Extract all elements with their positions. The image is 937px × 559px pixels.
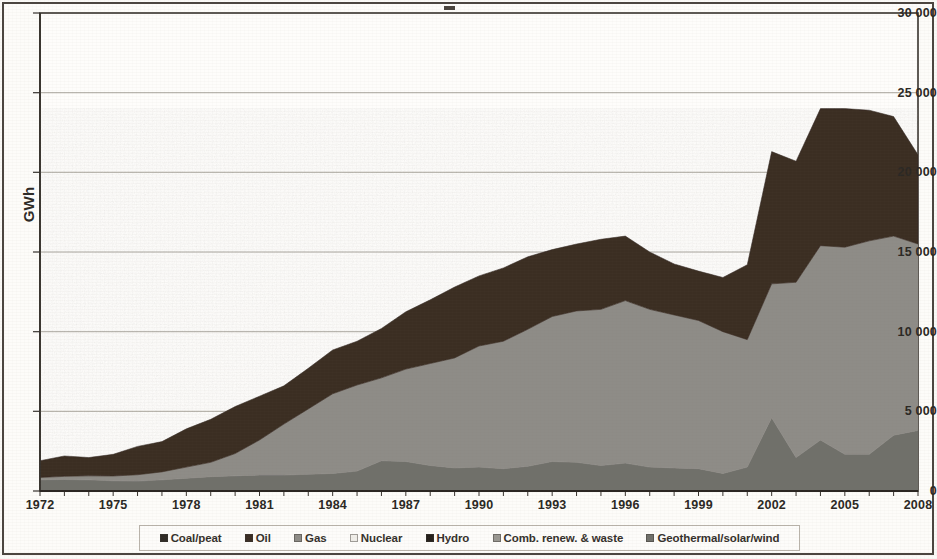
legend-item-nuclear[interactable]: Nuclear: [350, 532, 403, 544]
page-background: GWh 30 000 25 000 20 000 15 000 10 000 5…: [0, 0, 937, 559]
x-tick-label: 1972: [10, 498, 70, 512]
legend-item-geothermal-solar-wind[interactable]: Geothermal/solar/wind: [646, 532, 779, 544]
y-tick-label: 25 000: [873, 86, 937, 100]
x-tick-label: 1987: [376, 498, 436, 512]
legend-item-comb-renew-waste[interactable]: Comb. renew. & waste: [493, 532, 624, 544]
x-tick-label: 2002: [742, 498, 802, 512]
y-tick-label: 0: [873, 484, 937, 498]
y-tick-label: 5 000: [873, 404, 937, 418]
legend-swatch-icon: [350, 534, 358, 542]
legend-label: Coal/peat: [171, 532, 222, 544]
legend-label: Gas: [305, 532, 326, 544]
x-tick-label: 2008: [888, 498, 937, 512]
legend-swatch-icon: [294, 534, 302, 542]
legend-swatch-icon: [245, 534, 253, 542]
legend-swatch-icon: [646, 534, 654, 542]
x-tick-label: 2005: [815, 498, 875, 512]
chart-canvas: GWh 30 000 25 000 20 000 15 000 10 000 5…: [0, 0, 937, 520]
y-tick-label: 30 000: [873, 6, 937, 20]
y-tick-label: 15 000: [873, 245, 937, 259]
legend-label: Geothermal/solar/wind: [657, 532, 779, 544]
x-tick-label: 1996: [595, 498, 655, 512]
legend-swatch-icon: [493, 534, 501, 542]
x-tick-label: 1981: [230, 498, 290, 512]
x-tick-label: 1999: [669, 498, 729, 512]
y-tick-label: 10 000: [873, 325, 937, 339]
x-tick-label: 1984: [303, 498, 363, 512]
y-axis-title: GWh: [20, 175, 37, 235]
legend-label: Comb. renew. & waste: [504, 532, 624, 544]
y-tick-label: 20 000: [873, 165, 937, 179]
legend-label: Nuclear: [361, 532, 403, 544]
x-tick-label: 1990: [449, 498, 509, 512]
legend-item-coal-peat[interactable]: Coal/peat: [160, 532, 222, 544]
x-tick-label: 1975: [83, 498, 143, 512]
legend-label: Hydro: [437, 532, 470, 544]
stacked-area-plot: [0, 0, 937, 520]
chart-legend: Coal/peatOilGasNuclearHydroComb. renew. …: [139, 525, 800, 551]
legend-swatch-icon: [426, 534, 434, 542]
legend-label: Oil: [256, 532, 271, 544]
legend-item-hydro[interactable]: Hydro: [426, 532, 470, 544]
legend-item-oil[interactable]: Oil: [245, 532, 271, 544]
x-tick-label: 1978: [156, 498, 216, 512]
x-tick-label: 1993: [522, 498, 582, 512]
y-axis-ticks: [33, 13, 40, 491]
legend-swatch-icon: [160, 534, 168, 542]
legend-item-gas[interactable]: Gas: [294, 532, 326, 544]
